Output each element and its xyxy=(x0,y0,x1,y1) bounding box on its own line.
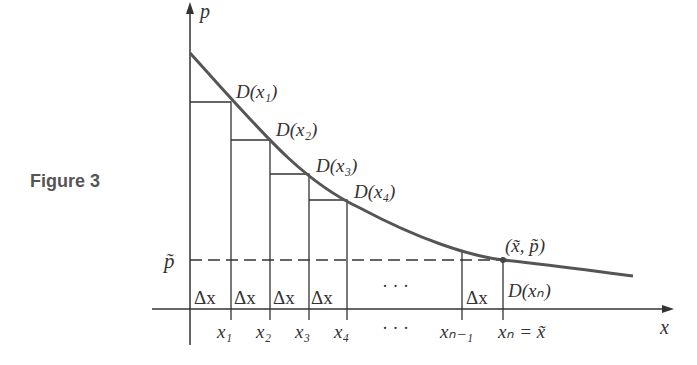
delta-x-2: Δx xyxy=(234,287,256,308)
delta-x-1: Δx xyxy=(194,287,216,308)
delta-x-n: Δx xyxy=(466,287,488,308)
tick-ellipsis: · · · xyxy=(382,318,409,338)
point-label-2: D(x₂) xyxy=(275,119,317,141)
tick-x1: x₁ xyxy=(216,321,232,342)
demand-curve-diagram: p x p̃ D(x₁) D(x₂) D(x₃) D(x₄) D(xₙ) (x̃… xyxy=(0,0,697,365)
ellipsis-middle: · · · xyxy=(382,276,409,296)
x-axis-label: x xyxy=(659,316,669,338)
p-axis-arrow-icon xyxy=(186,2,194,14)
tick-x3: x₃ xyxy=(294,321,310,342)
delta-x-4: Δx xyxy=(311,287,333,308)
point-label-1: D(x₁) xyxy=(235,81,277,103)
point-label-4: D(x₄) xyxy=(353,181,395,203)
tick-x2: x₂ xyxy=(255,321,271,342)
point-label-n: D(xₙ) xyxy=(507,280,551,302)
x-tick-labels: x₁ x₂ x₃ x₄ · · · xₙ₋₁ xₙ = x̃ xyxy=(216,318,546,342)
delta-x-labels: Δx Δx Δx Δx Δx · · · xyxy=(194,276,488,308)
p-tilde-label: p̃ xyxy=(162,249,175,273)
x-axis-arrow-icon xyxy=(662,305,674,313)
tick-x4: x₄ xyxy=(333,321,349,342)
tick-xn-1: xₙ₋₁ xyxy=(439,321,473,342)
tick-xn: xₙ = x̃ xyxy=(497,321,546,342)
figure: Figure 3 p x p̃ D(x₁) D(x₂) D(x₃) D(x₄) … xyxy=(0,0,697,365)
p-axis-label: p xyxy=(198,0,210,23)
point-label-3: D(x₃) xyxy=(315,155,357,177)
equilibrium-point xyxy=(500,257,506,263)
equilibrium-label: (x̃, p̃) xyxy=(505,235,545,257)
delta-x-3: Δx xyxy=(273,287,295,308)
